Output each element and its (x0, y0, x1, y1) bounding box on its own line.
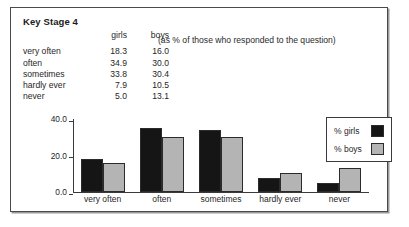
table-header-row: girls boys (23, 30, 169, 46)
bar-girls (258, 178, 280, 192)
bar-boys (339, 168, 361, 192)
bar-boys (103, 163, 125, 192)
table-row: sometimes 33.8 30.4 (23, 69, 169, 80)
row-label: never (23, 91, 85, 102)
row-value-girls: 18.3 (85, 46, 127, 57)
bar-girls (317, 183, 339, 192)
row-value-girls: 34.9 (85, 58, 127, 69)
table-row: very often 18.3 16.0 (23, 46, 169, 57)
chart-legend: % girls % boys (326, 117, 392, 162)
bar-chart: 40.0 20.0 0.0 very oftenoftensometimesha… (23, 111, 377, 209)
row-value-boys: 30.0 (127, 58, 169, 69)
row-label: very often (23, 46, 85, 57)
row-value-boys: 30.4 (127, 69, 169, 80)
row-value-girls: 5.0 (85, 91, 127, 102)
bar-group (251, 119, 310, 192)
legend-label: % girls (334, 126, 360, 136)
row-value-boys: 10.5 (127, 80, 169, 91)
x-tick-label: sometimes (191, 194, 250, 204)
row-label: sometimes (23, 69, 85, 80)
x-tick-label: often (132, 194, 191, 204)
legend-swatch-boys (371, 143, 384, 155)
row-label: hardly ever (23, 80, 85, 91)
figure-frame: Key Stage 4 (as % of those who responded… (10, 7, 388, 212)
legend-swatch-girls (371, 125, 384, 137)
bar-group (191, 119, 250, 192)
legend-item-boys: % boys (334, 141, 384, 156)
row-value-boys: 13.1 (127, 91, 169, 102)
x-axis-labels: very oftenoftensometimeshardly evernever (73, 194, 369, 204)
row-value-girls: 33.8 (85, 69, 127, 80)
table-row: hardly ever 7.9 10.5 (23, 80, 169, 91)
x-tick-label: very often (73, 194, 132, 204)
table-row: never 5.0 13.1 (23, 91, 169, 102)
y-tick-label: 0.0 (55, 187, 67, 197)
table-row: often 34.9 30.0 (23, 58, 169, 69)
y-tick-label: 40.0 (51, 114, 67, 124)
y-tick-label: 20.0 (51, 151, 67, 161)
bar-girls (140, 128, 162, 192)
bar-girls (81, 159, 103, 192)
x-tick-label: never (310, 194, 369, 204)
figure-subtitle: (as % of those who responded to the ques… (158, 35, 336, 45)
data-table: girls boys very often 18.3 16.0 often 34… (23, 30, 169, 103)
legend-item-girls: % girls (334, 123, 384, 138)
bar-boys (221, 137, 243, 192)
x-tick-label: hardly ever (251, 194, 310, 204)
bar-boys (162, 137, 184, 192)
bar-boys (280, 173, 302, 192)
bar-group (132, 119, 191, 192)
legend-label: % boys (334, 144, 362, 154)
y-axis-tick: 40.0 (51, 114, 73, 124)
figure-container: Key Stage 4 (as % of those who responded… (0, 0, 409, 227)
page-title: Key Stage 4 (23, 16, 78, 27)
row-value-boys: 16.0 (127, 46, 169, 57)
y-axis-tick: 20.0 (51, 151, 73, 161)
bar-group (73, 119, 132, 192)
row-value-girls: 7.9 (85, 80, 127, 91)
bar-girls (199, 130, 221, 192)
column-header-category (23, 30, 85, 46)
row-label: often (23, 58, 85, 69)
y-axis-tick: 0.0 (55, 187, 73, 197)
column-header-girls: girls (85, 30, 127, 46)
bar-groups (73, 119, 369, 192)
column-header-boys: boys (127, 30, 169, 46)
